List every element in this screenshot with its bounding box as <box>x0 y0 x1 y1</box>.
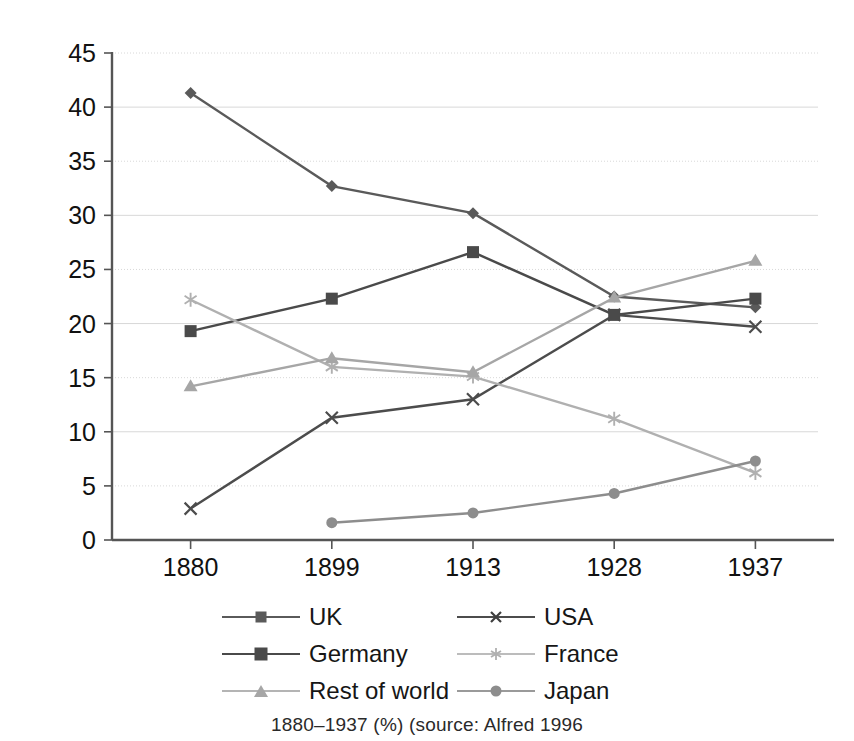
square-marker-icon <box>185 325 197 337</box>
series-rest-of-world <box>184 254 763 392</box>
star-marker-icon <box>489 647 503 661</box>
legend-key-france <box>457 647 535 661</box>
cross-marker-icon <box>185 503 197 515</box>
cross-marker-icon <box>489 610 503 624</box>
figure-caption: 1880–1937 (%) (source: Alfred 1996 <box>0 714 854 741</box>
y-axis-tick-label: 25 <box>68 255 96 283</box>
chart-legend: UK USA Germany <box>222 598 662 710</box>
series-line <box>191 300 756 473</box>
legend-key-uk <box>222 610 300 624</box>
circle-marker-icon <box>750 455 761 466</box>
square-marker-icon <box>326 293 338 305</box>
legend-item-germany[interactable]: Germany <box>222 635 457 672</box>
triangle-marker-icon <box>325 351 339 363</box>
circle-marker-icon <box>609 488 620 499</box>
x-axis-tick-label: 1928 <box>586 553 642 581</box>
series-line <box>332 461 756 523</box>
diamond-marker-icon <box>467 207 479 219</box>
square-marker-icon <box>467 246 479 258</box>
series-line <box>191 93 756 307</box>
series-uk <box>185 87 762 313</box>
star-marker-icon <box>749 466 761 480</box>
y-axis-tick-label: 40 <box>68 93 96 121</box>
legend-item-france[interactable]: France <box>457 635 662 672</box>
figure: 05101520253035404518801899191319281937 U… <box>0 0 854 741</box>
star-marker-icon <box>185 293 197 307</box>
legend-key-usa <box>457 610 535 624</box>
circle-marker-icon <box>468 507 479 518</box>
square-marker-icon <box>608 309 620 321</box>
y-axis-tick-label: 0 <box>82 526 96 554</box>
legend-label-germany: Germany <box>309 642 408 666</box>
diamond-marker-icon <box>256 611 267 622</box>
y-gridlines: 051015202530354045 <box>68 39 818 554</box>
legend-key-japan <box>457 684 535 698</box>
legend-item-rest-of-world[interactable]: Rest of world <box>222 672 457 709</box>
legend-item-japan[interactable]: Japan <box>457 672 662 709</box>
circle-marker-icon <box>491 685 502 696</box>
legend-item-usa[interactable]: USA <box>457 598 662 635</box>
y-axis-tick-label: 5 <box>82 472 96 500</box>
x-axis-tick-label: 1913 <box>445 553 501 581</box>
circle-marker-icon <box>326 517 337 528</box>
x-axis-tick-label: 1937 <box>728 553 784 581</box>
legend-label-uk: UK <box>309 605 342 629</box>
legend-label-japan: Japan <box>544 679 609 703</box>
y-axis-tick-label: 20 <box>68 310 96 338</box>
y-axis-tick-label: 15 <box>68 364 96 392</box>
legend-label-usa: USA <box>544 605 593 629</box>
x-axis-tick-label: 1899 <box>304 553 360 581</box>
y-axis-tick-label: 45 <box>68 39 96 67</box>
line-chart: 05101520253035404518801899191319281937 <box>0 0 854 600</box>
square-marker-icon <box>255 647 268 660</box>
y-axis-tick-label: 10 <box>68 418 96 446</box>
legend-label-rest-of-world: Rest of world <box>309 679 449 703</box>
legend-key-germany <box>222 647 300 661</box>
legend-label-france: France <box>544 642 619 666</box>
triangle-marker-icon <box>254 685 268 697</box>
legend-item-uk[interactable]: UK <box>222 598 457 635</box>
x-axis-tick-label: 1880 <box>163 553 219 581</box>
y-axis-tick-label: 30 <box>68 201 96 229</box>
x-axis-ticks: 18801899191319281937 <box>163 540 783 581</box>
square-marker-icon <box>749 293 761 305</box>
star-marker-icon <box>608 412 620 426</box>
chart-plot-area: 05101520253035404518801899191319281937 <box>0 0 854 600</box>
legend-key-rest-of-world <box>222 684 300 698</box>
series-japan <box>326 455 761 528</box>
y-axis-tick-label: 35 <box>68 147 96 175</box>
series-usa <box>185 309 762 515</box>
triangle-marker-icon <box>748 254 762 266</box>
